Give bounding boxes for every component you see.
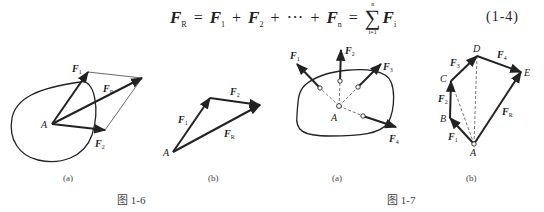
panel-a-caption: (a) — [63, 173, 73, 183]
f2-label: F2 — [344, 45, 355, 57]
point-c-label: C — [440, 73, 447, 84]
fr-label: FR — [501, 106, 513, 118]
panel-b-caption: (b) — [466, 173, 477, 183]
panel-a-caption: (a) — [332, 173, 342, 183]
f1-label: F1 — [177, 114, 188, 126]
point-a-label: A — [162, 147, 170, 158]
f2-label: F2 — [437, 93, 448, 105]
vector-f1-arrow — [173, 98, 210, 152]
f1-label: F1 — [289, 50, 300, 62]
figures-canvas: A F1 F2 FR (a) A F1 F2 FR (b) 图 1-6 — [0, 0, 544, 212]
fr-label: FR — [223, 128, 235, 140]
figure-1-6a-parallelogram: A F1 F2 FR (a) — [11, 63, 142, 183]
vector-f2-arrow — [340, 50, 341, 81]
f3-label: F3 — [449, 57, 460, 69]
f1-label: F1 — [447, 131, 458, 143]
figure-1-7-caption: 图 1-7 — [387, 194, 416, 206]
vector-f1-arrow — [297, 64, 320, 88]
point-b-label: B — [440, 113, 446, 124]
vector-f1-arrow — [52, 72, 88, 124]
panel-b-caption: (b) — [208, 173, 219, 183]
point-a-label: A — [330, 112, 338, 123]
vector-f2-arrow — [52, 124, 105, 130]
vector-fr-arrow — [474, 72, 521, 144]
point-d-label: D — [472, 43, 481, 54]
point-a-label: A — [469, 147, 477, 158]
f2-label: F2 — [94, 138, 105, 150]
f1-label: F1 — [71, 63, 82, 75]
parallelogram-edge — [88, 72, 142, 78]
vector-f3-arrow — [358, 64, 381, 87]
vector-f2-arrow — [450, 81, 451, 118]
point-e-label: E — [523, 67, 530, 78]
figure-1-7b-force-polygon: A B C D E F1 F2 F3 F4 FR (b) — [437, 43, 530, 183]
f2-label: F2 — [229, 86, 240, 98]
parallelogram-edge — [105, 78, 142, 130]
figure-1-7a-concurrent-forces: A F1 F2 F3 F4 (a) — [289, 45, 399, 183]
vector-fr-arrow — [173, 105, 260, 152]
f3-label: F3 — [382, 61, 393, 73]
figure-1-6b-triangle: A F1 F2 FR (b) — [162, 86, 260, 183]
point-a-label: A — [40, 119, 48, 130]
figure-1-6-caption: 图 1-6 — [117, 194, 146, 206]
f4-label: F4 — [388, 133, 399, 145]
fr-label: FR — [102, 83, 114, 95]
vector-f2-arrow — [210, 98, 260, 105]
f4-label: F4 — [496, 49, 507, 61]
